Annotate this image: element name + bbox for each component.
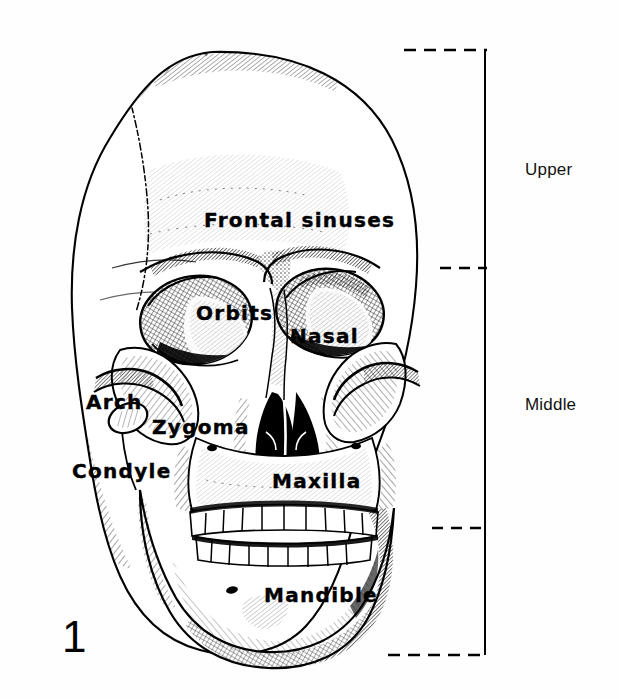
label-mandible: Mandible: [264, 585, 378, 605]
region-label-middle: Middle: [525, 395, 576, 415]
label-zygoma: Zygoma: [152, 417, 250, 437]
label-condyle: Condyle: [72, 461, 172, 481]
upper-teeth: [190, 501, 378, 537]
label-nasal: Nasal: [290, 326, 359, 346]
label-maxilla: Maxilla: [272, 471, 361, 491]
figure-number: 1: [62, 615, 86, 659]
region-label-upper: Upper: [525, 160, 572, 180]
label-arch: Arch: [86, 392, 143, 412]
label-frontal-sinuses: Frontal sinuses: [204, 210, 395, 230]
label-orbits: Orbits: [196, 303, 273, 323]
figure-container: Frontal sinuses Orbits Nasal Arch Zygoma…: [0, 0, 619, 699]
